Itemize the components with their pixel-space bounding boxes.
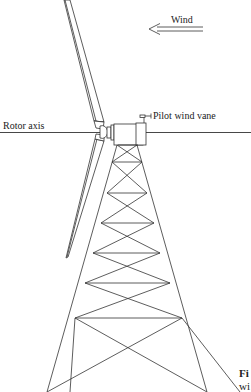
lower-blade [66, 134, 104, 258]
pilot-wind-vane-label: Pilot wind vane [153, 111, 216, 121]
caption-prefix: Fi [239, 367, 249, 379]
nacelle [114, 123, 146, 145]
caption-line2: wi [239, 380, 250, 392]
lattice-tower [47, 145, 240, 392]
pilot-wind-vane-icon [140, 114, 151, 124]
wind-label: Wind [171, 15, 193, 25]
wind-arrow-icon [149, 24, 203, 35]
rotor-hub [100, 125, 114, 140]
rotor-axis-label: Rotor axis [3, 121, 44, 131]
figure-caption: Fi wi [239, 367, 250, 392]
wind-turbine-diagram [0, 0, 251, 392]
upper-blade [64, 0, 104, 129]
